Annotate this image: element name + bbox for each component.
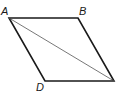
vertex-label-a: A [0,5,8,17]
parallelogram-diagram: A B D [0,0,116,93]
vertex-label-d: D [36,81,44,93]
vertex-label-b: B [79,5,86,17]
diagonal-ac [9,18,114,81]
